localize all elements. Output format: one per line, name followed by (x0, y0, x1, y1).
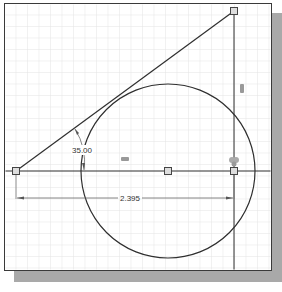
endpoint-right[interactable] (231, 168, 238, 175)
sketch-canvas[interactable]: 2.395 35.00 (0, 0, 282, 292)
circle-center-point[interactable] (165, 168, 172, 175)
horizontal-constraint-icon[interactable] (121, 157, 129, 161)
vertical-constraint-icon[interactable] (240, 84, 244, 93)
grid (6, 5, 271, 270)
endpoint-left[interactable] (13, 168, 20, 175)
angle-dimension[interactable]: 35.00 (72, 146, 93, 155)
length-dimension[interactable]: 2.395 (120, 194, 141, 203)
endpoint-top[interactable] (231, 8, 238, 15)
